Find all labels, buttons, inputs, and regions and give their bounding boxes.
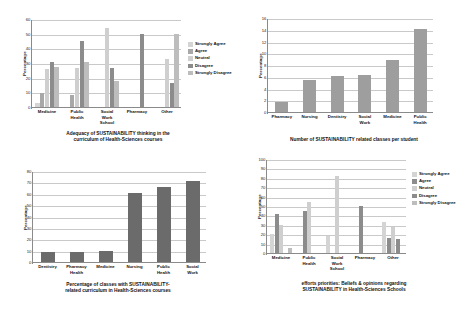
x-tick-mark	[77, 262, 78, 263]
bar	[186, 181, 200, 262]
y-tick-label: 80	[261, 177, 266, 181]
y-tick-label: 10	[27, 250, 32, 254]
legend-swatch-icon	[188, 56, 193, 61]
y-tick-label: 60	[261, 195, 266, 199]
bar	[387, 238, 391, 253]
x-tick-mark	[164, 262, 165, 263]
legend-swatch-icon	[188, 49, 193, 54]
y-tick-label: 10	[26, 91, 31, 95]
legend-item: Strongly Disagree	[188, 71, 232, 76]
legend-label: Neutral	[195, 56, 210, 61]
chart-legend: Strongly AgreeAgreeNeutralDisagreeStrong…	[412, 172, 456, 208]
chart-caption: Number of SUSTAINABILITY related classes…	[236, 137, 472, 143]
bar	[41, 252, 55, 262]
y-tick-label: 60	[26, 18, 31, 22]
bar	[35, 103, 39, 107]
plot-area: 0102030405060708090100MedicinePublic Hea…	[266, 160, 406, 254]
bar-group	[295, 160, 323, 253]
x-tick-mark	[393, 112, 394, 113]
legend-label: Strongly Disagree	[195, 71, 232, 76]
y-tick-label: 6	[264, 76, 266, 80]
bar-group	[178, 172, 207, 262]
bar	[84, 62, 88, 107]
x-tick-label: Other	[372, 255, 414, 260]
bar	[391, 227, 395, 253]
bar	[165, 59, 169, 107]
y-tick-label: 80	[27, 170, 32, 174]
chart-caption: Percentage of classes with SUSTAINABILIT…	[0, 282, 236, 294]
y-tick-label: 30	[261, 224, 266, 228]
bar-group	[296, 19, 324, 112]
y-tick-label: 2	[264, 99, 266, 103]
bar	[110, 68, 114, 107]
y-tick-label: 4	[264, 87, 266, 91]
bar	[307, 202, 311, 253]
bar	[303, 80, 316, 112]
x-tick-label: Other	[145, 109, 190, 114]
bar-group	[406, 19, 434, 112]
x-tick-mark	[310, 112, 311, 113]
legend-item: Strongly Agree	[412, 172, 456, 177]
x-tick-mark	[365, 253, 366, 254]
bar-group	[62, 20, 92, 107]
bar	[386, 60, 399, 112]
x-tick-mark	[137, 107, 138, 108]
y-tick-label: 40	[261, 214, 266, 218]
bar	[114, 81, 118, 107]
legend-swatch-icon	[412, 186, 417, 191]
bar	[80, 41, 84, 107]
y-tick-label: 20	[27, 238, 32, 242]
x-tick-mark	[282, 112, 283, 113]
bar	[335, 176, 339, 253]
bar-group	[379, 19, 407, 112]
bar	[275, 102, 288, 112]
bar	[50, 62, 54, 107]
bar	[70, 252, 84, 262]
x-tick-mark	[420, 112, 421, 113]
x-tick-mark	[47, 107, 48, 108]
y-tick-label: 16	[262, 17, 267, 21]
bar	[70, 95, 74, 107]
bar	[279, 225, 283, 253]
y-tick-label: 8	[264, 64, 266, 68]
legend-label: Strongly Agree	[195, 42, 226, 47]
legend-label: Agree	[419, 179, 431, 184]
bar	[414, 29, 427, 112]
bar	[54, 67, 58, 107]
x-tick-mark	[107, 107, 108, 108]
x-tick-mark	[365, 112, 366, 113]
legend-label: Disagree	[195, 64, 213, 69]
bar	[105, 28, 109, 107]
legend-label: Disagree	[419, 194, 437, 199]
legend-swatch-icon	[412, 194, 417, 199]
bar-group	[120, 172, 149, 262]
legend-label: Strongly Disagree	[419, 201, 456, 206]
bar	[157, 187, 171, 262]
legend-swatch-icon	[188, 64, 193, 69]
legend-item: Neutral	[412, 186, 456, 191]
y-tick-label: 14	[262, 29, 267, 33]
bar-group	[351, 160, 379, 253]
x-tick-mark	[167, 107, 168, 108]
bar-group	[267, 160, 295, 253]
bar	[140, 34, 144, 107]
x-tick-mark	[193, 262, 194, 263]
y-tick-label: 30	[26, 62, 31, 66]
legend-item: Agree	[412, 179, 456, 184]
y-axis-label: Percentage	[258, 53, 263, 78]
x-tick-mark	[48, 262, 49, 263]
y-tick-label: 20	[26, 77, 31, 81]
legend-item: Disagree	[412, 194, 456, 199]
plot-area: 01020304050607080DentistryPharmacy Healt…	[32, 172, 206, 263]
bar-group	[351, 19, 379, 112]
bar-group	[323, 160, 351, 253]
y-tick-label: 90	[261, 167, 266, 171]
x-tick-mark	[106, 262, 107, 263]
legend-label: Agree	[195, 49, 207, 54]
legend-swatch-icon	[188, 42, 193, 47]
x-tick-mark	[77, 107, 78, 108]
chart-caption: efforts priorities: Beliefs & opinions r…	[236, 281, 472, 293]
bar-group	[91, 172, 120, 262]
bar	[326, 236, 330, 253]
bar	[358, 75, 371, 112]
